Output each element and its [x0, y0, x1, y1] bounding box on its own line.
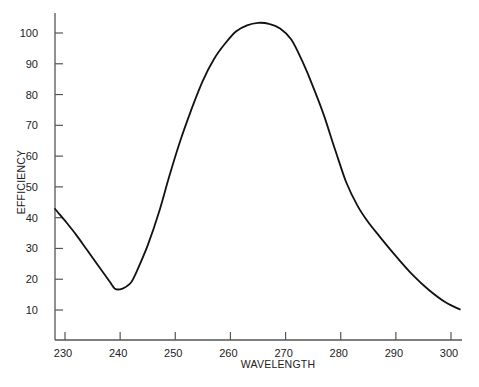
- x-tick-label: 290: [385, 347, 403, 359]
- y-tick-label: 10: [26, 304, 38, 316]
- y-tick-label: 40: [26, 212, 38, 224]
- y-tick-label: 50: [26, 181, 38, 193]
- y-tick-label: 80: [26, 89, 38, 101]
- x-tick-label: 300: [440, 347, 458, 359]
- y-axis-title: EFFICIENCY: [15, 150, 27, 214]
- efficiency-curve: [55, 23, 460, 310]
- x-tick-label: 240: [109, 347, 127, 359]
- x-tick-label: 260: [219, 347, 237, 359]
- y-tick-label: 30: [26, 242, 38, 254]
- x-axis-ticks: 230240250260270280290300: [54, 332, 458, 359]
- y-tick-label: 100: [20, 27, 38, 39]
- y-tick-label: 20: [26, 273, 38, 285]
- x-tick-label: 230: [54, 347, 72, 359]
- x-tick-label: 250: [164, 347, 182, 359]
- y-tick-label: 60: [26, 150, 38, 162]
- y-tick-label: 90: [26, 58, 38, 70]
- x-tick-label: 280: [330, 347, 348, 359]
- efficiency-chart: 102030405060708090100 230240250260270280…: [0, 0, 479, 387]
- x-axis-title: WAVELENGTH: [241, 358, 315, 370]
- y-tick-label: 70: [26, 119, 38, 131]
